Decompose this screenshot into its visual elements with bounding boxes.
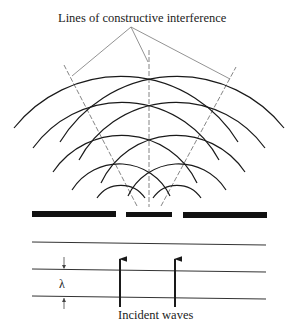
- constructive-interference-lines: [64, 50, 236, 207]
- slit-barrier: [32, 211, 267, 218]
- wavefronts-left-slit: [14, 76, 238, 198]
- double-slit-interference-diagram: Lines of constructive interference λ Inc…: [0, 0, 292, 322]
- incident-plane-waves: [32, 242, 266, 299]
- diagram-title: Lines of constructive interference: [58, 11, 226, 26]
- wavefronts-right-slit: [60, 76, 284, 198]
- wavelength-label: λ: [59, 277, 65, 292]
- incident-waves-label: Incident waves: [118, 308, 193, 322]
- label-pointer-lines: [72, 27, 230, 79]
- incident-direction-arrows: [120, 259, 175, 307]
- diagram-canvas: [0, 0, 292, 322]
